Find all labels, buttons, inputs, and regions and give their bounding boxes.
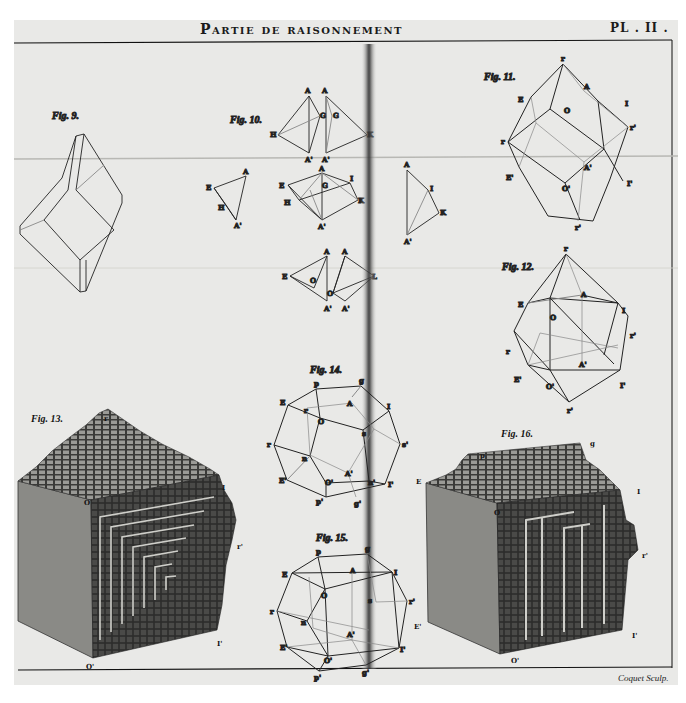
svg-text:O': O' xyxy=(325,478,333,487)
svg-text:I': I' xyxy=(632,631,637,640)
svg-text:A': A' xyxy=(341,304,350,313)
svg-text:H: H xyxy=(284,198,291,207)
svg-text:g: g xyxy=(590,439,595,448)
svg-text:O: O xyxy=(318,417,324,426)
svg-text:r': r' xyxy=(237,542,243,551)
svg-text:G: G xyxy=(322,181,328,190)
figure-11: Fig. 11. rE AO Ir' rA' E'O' I'r' xyxy=(483,54,636,232)
svg-text:E': E' xyxy=(414,622,421,631)
svg-text:I: I xyxy=(622,306,625,315)
svg-text:A: A xyxy=(242,167,249,176)
figure-14: Fig. 14. pg Er AI Os rn s'E' A'O' n'I' xyxy=(267,364,408,508)
svg-text:I: I xyxy=(430,184,433,193)
svg-text:r': r' xyxy=(409,597,415,606)
figure-9: Fig. 9. xyxy=(20,110,122,292)
fig-9-caption: Fig. 9. xyxy=(51,110,79,121)
svg-text:A: A xyxy=(349,566,356,575)
svg-text:A': A' xyxy=(323,304,332,313)
svg-text:O': O' xyxy=(546,382,554,391)
svg-text:s: s xyxy=(362,429,366,438)
svg-text:p: p xyxy=(314,379,319,388)
svg-text:A': A' xyxy=(583,163,592,172)
svg-text:A: A xyxy=(321,86,328,95)
svg-text:r': r' xyxy=(630,123,636,132)
svg-text:r: r xyxy=(501,137,505,146)
svg-text:A: A xyxy=(346,399,353,408)
svg-text:I': I' xyxy=(400,645,405,654)
svg-text:O: O xyxy=(327,289,333,298)
svg-text:r': r' xyxy=(642,551,648,560)
svg-text:I': I' xyxy=(627,179,632,188)
svg-text:A: A xyxy=(580,290,587,299)
svg-text:A': A' xyxy=(321,155,330,164)
svg-text:O: O xyxy=(550,313,556,322)
svg-text:r: r xyxy=(104,414,108,423)
fig-16-caption: Fig. 16. xyxy=(500,428,533,439)
svg-text:A': A' xyxy=(304,155,313,164)
svg-text:G: G xyxy=(320,111,326,120)
svg-text:O: O xyxy=(564,106,570,115)
svg-text:K: K xyxy=(440,208,447,217)
plate-artwork: Fig. 9. Fig. 10. AA HGG K A'A' xyxy=(14,20,678,685)
svg-text:E: E xyxy=(282,570,287,579)
svg-text:E: E xyxy=(518,95,523,104)
svg-text:E: E xyxy=(206,183,211,192)
svg-text:E: E xyxy=(280,398,285,407)
svg-text:O: O xyxy=(310,276,316,285)
svg-text:n: n xyxy=(301,618,306,627)
svg-text:r: r xyxy=(506,347,510,356)
svg-text:r: r xyxy=(267,440,271,449)
svg-text:A': A' xyxy=(403,237,412,246)
svg-text:G: G xyxy=(333,111,339,120)
svg-text:A': A' xyxy=(346,630,355,639)
svg-text:H: H xyxy=(270,130,277,139)
svg-text:s: s xyxy=(368,596,372,605)
svg-text:A': A' xyxy=(317,222,326,231)
svg-text:I: I xyxy=(394,568,397,577)
svg-text:n: n xyxy=(302,454,307,463)
svg-text:r': r' xyxy=(575,223,581,232)
svg-text:g: g xyxy=(359,376,364,385)
fig-10-caption: Fig. 10. xyxy=(229,114,262,125)
svg-text:E: E xyxy=(282,272,287,281)
svg-text:I': I' xyxy=(620,381,625,390)
svg-text:E': E' xyxy=(279,476,286,485)
figure-16: Fig. 16. pg EI Or' E'I' O' xyxy=(414,428,648,665)
svg-text:r: r xyxy=(270,607,274,616)
svg-text:O': O' xyxy=(324,656,332,665)
svg-text:O: O xyxy=(494,508,500,517)
svg-text:O': O' xyxy=(86,662,94,671)
svg-text:I': I' xyxy=(388,480,393,489)
svg-text:I: I xyxy=(222,483,225,492)
svg-text:I: I xyxy=(625,99,628,108)
svg-text:r: r xyxy=(564,244,568,253)
svg-text:p': p' xyxy=(316,497,323,506)
svg-text:g: g xyxy=(365,544,370,553)
svg-text:O: O xyxy=(84,498,90,507)
svg-text:H: H xyxy=(218,203,225,212)
page-fold-shadow xyxy=(361,44,377,669)
svg-text:O': O' xyxy=(511,656,519,665)
svg-text:A': A' xyxy=(233,221,242,230)
svg-text:r: r xyxy=(561,54,565,63)
header-rule xyxy=(14,40,672,43)
fig-14-caption: Fig. 14. xyxy=(309,364,342,375)
svg-text:I: I xyxy=(387,402,390,411)
svg-text:A': A' xyxy=(578,360,587,369)
svg-text:I': I' xyxy=(217,639,222,648)
fig-12-caption: Fig. 12. xyxy=(501,261,534,272)
svg-text:O: O xyxy=(321,591,327,600)
figure-15: Fig. 15. pg EA IO rn sr' E'A' xyxy=(270,532,415,682)
svg-text:s': s' xyxy=(402,440,408,449)
fig-13-caption: Fig. 13. xyxy=(30,413,63,424)
svg-text:r': r' xyxy=(630,331,636,340)
fig-11-caption: Fig. 11. xyxy=(483,71,515,82)
svg-text:p': p' xyxy=(314,673,321,682)
svg-text:A: A xyxy=(403,160,410,169)
svg-text:g': g' xyxy=(362,668,369,677)
svg-text:E': E' xyxy=(514,375,521,384)
svg-text:O': O' xyxy=(562,184,570,193)
figure-10: Fig. 10. AA HGG K A'A' AE HA' AE GI HK xyxy=(206,86,447,313)
engraver-signature: Coquet Sculp. xyxy=(618,673,669,683)
fig-15-caption: Fig. 15. xyxy=(315,532,348,543)
